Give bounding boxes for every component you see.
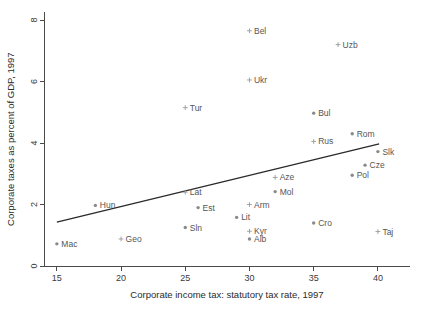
chart-canvas: 02468 152025303540 BelUzbUkrTurBulRomRus…: [0, 0, 423, 314]
point-label: Pol: [357, 170, 369, 180]
marker-dot-icon: [235, 216, 238, 219]
marker-dot-icon: [196, 206, 199, 209]
point-label: Hun: [100, 200, 116, 210]
marker-dot-icon: [312, 221, 315, 224]
marker-dot-icon: [376, 150, 379, 153]
data-point-arm: Arm: [247, 200, 269, 210]
data-point-sln: Sln: [184, 223, 203, 233]
point-label: Uzb: [343, 40, 358, 50]
point-label: Lat: [190, 187, 202, 197]
marker-dot-icon: [312, 111, 315, 114]
marker-dot-icon: [55, 242, 58, 245]
point-label: Rus: [318, 136, 333, 146]
point-label: Geo: [126, 234, 142, 244]
x-tick-label: 30: [244, 273, 254, 283]
data-point-slk: Slk: [376, 147, 395, 157]
point-label: Arm: [254, 200, 270, 210]
y-tick-label: 0: [29, 263, 39, 268]
x-axis: 152025303540: [45, 267, 411, 284]
data-point-bul: Bul: [312, 108, 331, 118]
x-tick-label: 40: [373, 273, 383, 283]
point-label: Bel: [254, 26, 266, 36]
data-point-ukr: Ukr: [247, 75, 267, 85]
marker-dot-icon: [273, 190, 276, 193]
point-label: Est: [203, 203, 216, 213]
point-label: Aze: [280, 172, 295, 182]
point-label: Cro: [318, 218, 332, 228]
point-label: Lit: [241, 212, 251, 222]
point-label: Alb: [254, 234, 267, 244]
point-label: Rom: [357, 129, 375, 139]
point-label: Taj: [382, 227, 393, 237]
axis-titles: Corporate income tax: statutory tax rate…: [5, 52, 324, 300]
data-point-hun: Hun: [94, 200, 116, 210]
y-tick-label: 4: [29, 140, 39, 145]
point-label: Tur: [190, 103, 203, 113]
data-point-alb: Alb: [248, 234, 267, 244]
data-point-cro: Cro: [312, 218, 332, 228]
y-tick-label: 8: [29, 17, 39, 22]
data-point-rus: Rus: [311, 136, 333, 146]
x-axis-title: Corporate income tax: statutory tax rate…: [130, 289, 323, 300]
marker-dot-icon: [351, 174, 354, 177]
data-point-aze: Aze: [273, 172, 295, 182]
point-label: Sln: [190, 223, 203, 233]
data-point-mol: Mol: [273, 187, 293, 197]
point-label: Mol: [280, 187, 294, 197]
data-point-rom: Rom: [351, 129, 375, 139]
y-axis: 02468: [29, 12, 45, 268]
scatter-chart-figure: 02468 152025303540 BelUzbUkrTurBulRomRus…: [0, 0, 423, 314]
point-label: Slk: [382, 147, 395, 157]
marker-dot-icon: [363, 163, 366, 166]
marker-dot-icon: [248, 237, 251, 240]
point-label: Ukr: [254, 75, 267, 85]
data-point-cze: Cze: [363, 160, 385, 170]
y-axis-title: Corporate taxes as percent of GDP, 1997: [5, 52, 16, 226]
data-point-tur: Tur: [183, 103, 203, 113]
marker-dot-icon: [351, 132, 354, 135]
x-tick-label: 25: [180, 273, 190, 283]
data-point-taj: Taj: [375, 227, 393, 237]
data-point-lit: Lit: [235, 212, 251, 222]
data-point-lat: Lat: [183, 187, 202, 197]
point-label: Cze: [370, 160, 385, 170]
point-label: Bul: [318, 108, 330, 118]
data-point-mac: Mac: [55, 239, 78, 249]
data-points: BelUzbUkrTurBulRomRusSlkCzePolAzeMolLatA…: [55, 26, 395, 249]
x-tick-label: 35: [309, 273, 319, 283]
data-point-geo: Geo: [119, 234, 142, 244]
y-tick-label: 6: [29, 79, 39, 84]
data-point-pol: Pol: [351, 170, 370, 180]
y-tick-label: 2: [29, 202, 39, 207]
data-point-uzb: Uzb: [336, 40, 358, 50]
x-tick-label: 15: [52, 273, 62, 283]
x-tick-label: 20: [116, 273, 126, 283]
data-point-bel: Bel: [247, 26, 266, 36]
data-point-est: Est: [196, 203, 215, 213]
marker-dot-icon: [184, 226, 187, 229]
marker-dot-icon: [94, 204, 97, 207]
point-label: Mac: [61, 239, 78, 249]
